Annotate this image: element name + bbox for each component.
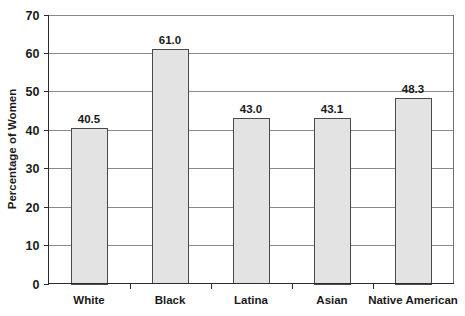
y-tick-label-60: 60	[26, 47, 40, 61]
y-tick-label-50: 50	[26, 85, 40, 99]
value-label-black: 61.0	[159, 34, 181, 46]
y-tick-label-20: 20	[26, 201, 40, 215]
value-label-asian: 43.1	[321, 103, 344, 115]
bar-native-american	[396, 99, 432, 285]
y-tick-label-10: 10	[26, 239, 40, 253]
y-tick-label-0: 0	[33, 278, 40, 292]
x-label-asian: Asian	[316, 294, 347, 306]
x-label-white: White	[73, 294, 104, 306]
bar-latina	[234, 119, 270, 284]
y-tick-label-30: 30	[26, 162, 40, 176]
value-label-white: 40.5	[78, 113, 101, 125]
bar-white	[72, 129, 108, 285]
x-label-native-american: Native American	[368, 294, 458, 306]
bar-chart-figure: 010203040506070 40.561.043.043.148.3 Whi…	[0, 0, 465, 316]
x-label-black: Black	[155, 294, 186, 306]
y-tick-label-40: 40	[26, 124, 40, 138]
y-axis-title: Percentage of Women	[6, 89, 18, 210]
chart-canvas: 010203040506070 40.561.043.043.148.3 Whi…	[0, 0, 465, 316]
y-tick-label-70: 70	[26, 9, 40, 23]
bar-black	[153, 50, 189, 284]
value-label-native-american: 48.3	[402, 83, 424, 95]
bar-asian	[315, 119, 351, 285]
value-label-latina: 43.0	[240, 103, 262, 115]
x-label-latina: Latina	[234, 294, 268, 306]
